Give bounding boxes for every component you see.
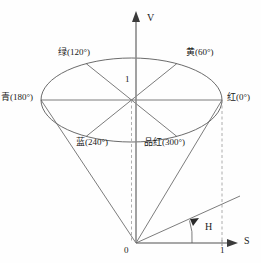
hue-angle-arc: [190, 221, 193, 244]
value-axis-label: V: [147, 13, 154, 23]
hue-label-magenta: 品红(300°): [144, 138, 185, 147]
hue-label-yellow: 黄(60°): [186, 48, 214, 57]
hue-angle-group: [136, 196, 240, 243]
value-axis-arrowhead: [132, 11, 140, 22]
hue-label-red: 红(0°): [227, 93, 250, 102]
saturation-axis-label: S: [244, 236, 250, 246]
saturation-axis-arrowhead: [227, 239, 238, 247]
radius-blue: [86, 100, 131, 136]
value-axis-group: [132, 11, 140, 243]
origin-label: 0: [124, 246, 129, 255]
cone-left-edge: [41, 100, 136, 243]
radius-magenta: [132, 100, 177, 136]
hue-label-blue: 蓝(240°): [76, 138, 108, 147]
hue-ray: [136, 196, 240, 243]
hue-label-green: 绿(120°): [58, 48, 90, 57]
radius-yellow: [132, 64, 177, 100]
hsv-cone-diagram: 绿(120°) 黄(60°) 青(180°) 红(0°) 蓝(240°) 品红(…: [0, 0, 261, 263]
hue-label-cyan: 青(180°): [1, 93, 33, 102]
hue-angle-label: H: [205, 222, 212, 232]
v-radius-label: 1: [125, 75, 130, 84]
hue-ray-arrowhead: [190, 218, 199, 226]
diagram-canvas: [0, 0, 261, 263]
s-tick-label: 1: [220, 246, 225, 255]
